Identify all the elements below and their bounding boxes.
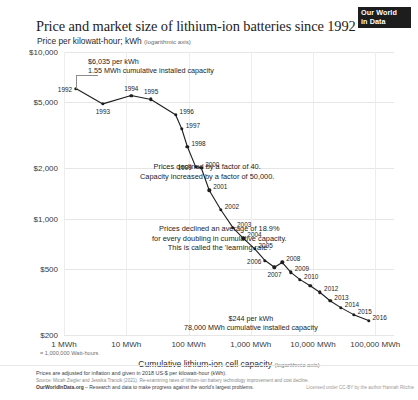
data-point-label: 2008 <box>286 255 300 262</box>
x-axis-tick-label: 10 MWh <box>111 340 141 349</box>
annotation-start: $6,035 per kWh 1.55 MWh cumulative insta… <box>88 58 248 76</box>
y-axis-tick-label: $1,000 <box>34 214 58 223</box>
plot-area: $10,000$5,000$2,000$1,000$500$200 1 MWh1… <box>64 52 394 335</box>
x-axis-tick-label: 10,000 MWh <box>290 340 335 349</box>
y-axis-tick-label: $200 <box>40 331 58 340</box>
data-point-label: 1998 <box>191 140 205 147</box>
data-point-label: 2014 <box>345 301 359 308</box>
y-axis-tick-label: $5,000 <box>34 98 58 107</box>
chart-root: Price and market size of lithium-ion bat… <box>0 0 418 400</box>
data-point-label: 1995 <box>144 88 158 95</box>
annotation-learning-line3: This is called the 'learning rate'. <box>152 243 287 253</box>
data-point-label: 1996 <box>180 108 194 115</box>
data-point-label: 2015 <box>358 308 372 315</box>
data-point-label: 1993 <box>96 108 110 115</box>
y-axis-tick-label: $10,000 <box>29 48 58 57</box>
owid-logo-line2: in Data <box>361 17 411 26</box>
data-point-label: 2010 <box>304 273 318 280</box>
annotation-middle-line2: Capacity increased by a factor of 50,000… <box>140 172 274 182</box>
y-axis-tick-label: $500 <box>40 264 58 273</box>
data-point-label: 1992 <box>58 86 72 93</box>
y-axis-tick-label: $2,000 <box>34 164 58 173</box>
data-point-label: 2007 <box>267 271 281 278</box>
data-point-label: 2016 <box>373 314 387 321</box>
annotation-end-line1: $244 per kWh <box>184 314 318 323</box>
x-axis-unit-note: = 1,000,000 Watt-hours <box>40 350 98 356</box>
data-point-label: 2006 <box>247 258 261 265</box>
footer-site-link[interactable]: OurWorldInData.org <box>36 384 84 390</box>
annotation-start-line2: 1.55 MWh cumulative installed capacity <box>88 67 248 76</box>
footer-divider <box>0 365 418 366</box>
callout-leader-vertical <box>76 75 77 89</box>
footer-source: Source: Micah Ziegler and Jessika Tranci… <box>36 377 414 384</box>
footer-license: Licensed under CC-BY by the author Hanna… <box>306 384 414 391</box>
y-gridline <box>64 335 394 336</box>
annotation-end: $244 per kWh 78,000 MWh cumulative insta… <box>184 314 318 332</box>
footer: Prices are adjusted for inflation and gi… <box>36 370 414 392</box>
footer-note: Prices are adjusted for inflation and gi… <box>36 370 414 377</box>
x-axis-tick-label: 1 MWh <box>51 340 76 349</box>
x-axis-tick-label: 100 MWh <box>171 340 205 349</box>
data-point-label: 2009 <box>295 265 309 272</box>
annotation-learning-rate: Prices declined an average of 18.9% for … <box>152 224 287 253</box>
data-point-label: 2012 <box>324 285 338 292</box>
x-axis-title: Cumulative lithium-ion cell capacity (lo… <box>138 359 319 369</box>
x-axis-tick-label: 1,000 MWh <box>230 340 271 349</box>
data-point-label: 2001 <box>213 183 227 190</box>
annotation-learning-line1: Prices declined an average of 18.9% <box>152 224 287 234</box>
annotation-middle: Prices declined by a factor of 40. Capac… <box>140 162 274 181</box>
footer-credit: Licensed under CC-BY by the author Hanna… <box>36 384 414 391</box>
data-point-label: 1994 <box>124 85 138 92</box>
subtitle-axis-note: (logarithmic axis) <box>144 38 191 45</box>
annotation-middle-line1: Prices declined by a factor of 40. <box>140 162 274 172</box>
series-line <box>64 52 394 335</box>
annotation-end-line2: 78,000 MWh cumulative installed capacity <box>184 323 318 332</box>
subtitle-text: Price per kilowatt-hour; kWh <box>37 36 142 46</box>
data-point-label: 1997 <box>186 122 200 129</box>
chart-subtitle: Price per kilowatt-hour; kWh (logarithmi… <box>37 36 191 46</box>
x-axis-title-text: Cumulative lithium-ion cell capacity <box>138 359 272 369</box>
data-point-label: 2002 <box>225 203 239 210</box>
page-title: Price and market size of lithium-ion bat… <box>36 18 356 35</box>
owid-logo-line1: Our World <box>361 8 411 17</box>
x-axis-tick-label: 100,000 MWh <box>350 340 400 349</box>
annotation-learning-line2: for every doubling in cumulative capacit… <box>152 234 287 244</box>
owid-logo[interactable]: Our World in Data <box>358 7 411 28</box>
footer-tagline: – Research and data to make progress aga… <box>85 384 254 390</box>
